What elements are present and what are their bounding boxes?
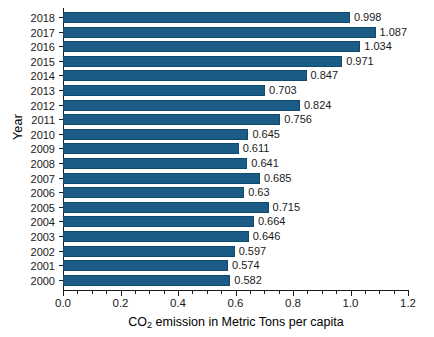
x-axis-tick-label: 0.2 [101,297,141,309]
bar [63,85,265,96]
bar-row: 0.641 [63,158,408,169]
bar [63,260,228,271]
bar [63,27,376,38]
bar-value-label: 0.998 [354,10,382,24]
x-axis-minor-tick [279,291,280,294]
x-axis-minor-tick [221,291,222,294]
bar-value-label: 0.63 [248,185,269,199]
x-axis-minor-tick [135,291,136,294]
bar-row: 0.847 [63,70,408,81]
y-axis-tick-label: 2014 [15,71,55,82]
y-axis-tick-label: 2017 [15,28,55,39]
bar-value-label: 0.646 [253,229,281,243]
x-axis-minor-tick [250,291,251,294]
bar-value-label: 0.582 [234,273,262,287]
bar-row: 0.685 [63,173,408,184]
x-axis-major-tick [351,291,352,296]
y-axis-tick-label: 2008 [15,159,55,170]
x-axis-major-tick [293,291,294,296]
bar-row: 0.646 [63,231,408,242]
bar [63,114,280,125]
y-axis-tick-label: 2001 [15,261,55,272]
x-axis-minor-tick [379,291,380,294]
bar-row: 0.611 [63,143,408,154]
bar [63,246,235,257]
bar [63,231,249,242]
x-axis-minor-tick [106,291,107,294]
x-axis-tick-label: 0.6 [216,297,256,309]
bar-value-label: 0.597 [239,244,267,258]
bar [63,187,244,198]
x-axis-minor-tick [192,291,193,294]
bar-row: 0.998 [63,12,408,23]
y-axis-tick-label: 2005 [15,203,55,214]
bar-value-label: 0.703 [269,83,297,97]
bar-value-label: 0.685 [264,171,292,185]
bar-value-label: 1.034 [364,39,392,53]
y-axis-tick-label: 2010 [15,130,55,141]
x-axis-minor-tick [92,291,93,294]
bar [63,56,342,67]
y-axis-tick-label: 2003 [15,232,55,243]
x-axis-minor-tick [322,291,323,294]
bar-row: 0.756 [63,114,408,125]
x-axis-major-tick [236,291,237,296]
x-axis-tick-label: 0.8 [273,297,313,309]
bar-row: 1.087 [63,27,408,38]
x-axis-major-tick [63,291,64,296]
bar-row: 0.664 [63,216,408,227]
y-axis-tick-label: 2013 [15,86,55,97]
bar-value-label: 0.664 [258,214,286,228]
y-axis-tick-label: 2004 [15,217,55,228]
y-axis-tick-label: 2011 [15,115,55,126]
bar-row: 0.824 [63,100,408,111]
bar-row: 0.703 [63,85,408,96]
bar-value-label: 0.641 [251,156,279,170]
y-axis-tick-label: 2002 [15,247,55,258]
y-axis-tick-label: 2012 [15,101,55,112]
bar-value-label: 0.756 [284,112,312,126]
bar [63,202,269,213]
x-axis-title: CO2 emission in Metric Tons per capita [63,315,409,329]
x-axis-minor-tick [394,291,395,294]
bar-row: 0.597 [63,246,408,257]
x-axis-title-subscript: 2 [147,320,152,330]
x-axis-tick-label: 1.0 [331,297,371,309]
x-axis-minor-tick [307,291,308,294]
bar-value-label: 0.574 [232,258,260,272]
y-axis-tick-label: 2015 [15,57,55,68]
x-axis-tick-label: 1.2 [388,297,428,309]
bar [63,173,260,184]
bar-row: 0.971 [63,56,408,67]
bar-row: 1.034 [63,41,408,52]
bar [63,100,300,111]
x-axis-minor-tick [149,291,150,294]
x-axis-title-suffix: emission in Metric Tons per capita [152,315,344,329]
bar [63,70,307,81]
y-axis-tick-label: 2009 [15,144,55,155]
bar [63,41,360,52]
bar-row: 0.63 [63,187,408,198]
x-axis-minor-tick [77,291,78,294]
bar-row: 0.582 [63,275,408,286]
bar [63,158,247,169]
bar-value-label: 0.645 [252,127,280,141]
bar [63,129,248,140]
y-axis-tick-label: 2006 [15,188,55,199]
x-axis-major-tick [408,291,409,296]
x-axis-title-prefix: CO [128,315,147,329]
bar [63,12,350,23]
y-axis-tick-label: 2000 [15,276,55,287]
bar-value-label: 1.087 [380,25,408,39]
bar-row: 0.645 [63,129,408,140]
x-axis-minor-tick [164,291,165,294]
bar-chart: Year 20182017201620152014201320122011201… [0,0,434,337]
bar [63,216,254,227]
bar-value-label: 0.715 [273,200,301,214]
y-axis-tick-label: 2007 [15,174,55,185]
x-axis-minor-tick [365,291,366,294]
bar-value-label: 0.847 [311,68,339,82]
bar-row: 0.574 [63,260,408,271]
y-axis-tick-label: 2016 [15,42,55,53]
x-axis-tick-label: 0.0 [43,297,83,309]
